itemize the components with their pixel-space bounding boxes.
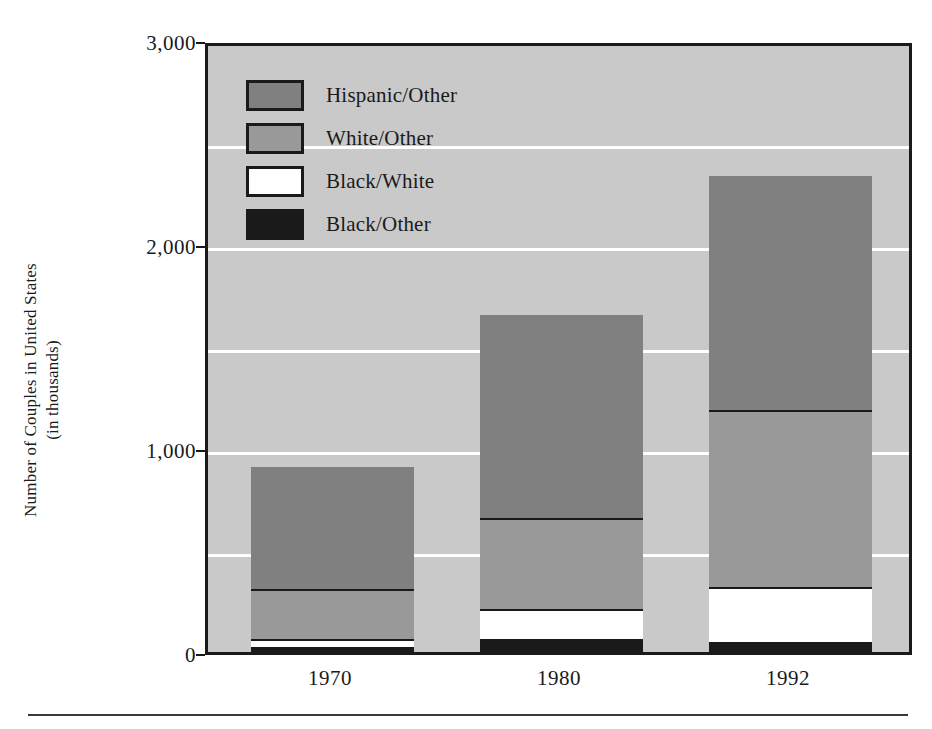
y-tick-label-1000: 1,000 <box>100 439 196 464</box>
plot-area: Hispanic/Other White/Other Black/White B… <box>205 43 912 655</box>
chart-figure: Number of Couples in United States (in t… <box>0 0 932 729</box>
y-axis-title-line2: (in thousands) <box>42 263 64 517</box>
footer-divider <box>28 714 908 716</box>
y-tick-mark-3000 <box>196 42 205 44</box>
legend-swatch-white-other <box>246 123 304 154</box>
legend-swatch-black-white <box>246 166 304 197</box>
legend-swatch-hispanic-other <box>246 80 304 111</box>
y-tick-mark-1000 <box>196 450 205 452</box>
bar-1970[interactable] <box>251 469 414 652</box>
bar-1980-segment-white-other <box>480 518 643 609</box>
bar-1970-segment-white-other <box>251 589 414 639</box>
bar-1992-segment-black-white <box>709 587 872 643</box>
y-tick-mark-2000 <box>196 246 205 248</box>
legend-label-black-other: Black/Other <box>326 212 431 237</box>
bar-1980-segment-hispanic-other <box>480 315 643 518</box>
y-axis-ticks: 3,000 2,000 1,000 0 <box>96 0 196 729</box>
legend-item-white-other[interactable]: White/Other <box>246 118 576 158</box>
bar-1992[interactable] <box>709 178 872 652</box>
y-tick-mark-0 <box>196 654 205 656</box>
legend-item-black-other[interactable]: Black/Other <box>246 204 576 244</box>
bar-1992-segment-hispanic-other <box>709 176 872 410</box>
y-tick-label-2000: 2,000 <box>100 235 196 260</box>
y-axis-title: Number of Couples in United States (in t… <box>22 180 62 600</box>
bar-1992-segment-black-other <box>709 642 872 652</box>
bar-1980-segment-black-other <box>480 639 643 652</box>
y-tick-label-0: 0 <box>100 643 196 668</box>
y-tick-label-3000: 3,000 <box>100 31 196 56</box>
legend-swatch-black-other <box>246 209 304 240</box>
y-axis-title-line1: Number of Couples in United States <box>21 263 40 517</box>
bar-1970-segment-hispanic-other <box>251 467 414 589</box>
bar-1980-segment-black-white <box>480 609 643 640</box>
bar-1992-segment-white-other <box>709 410 872 587</box>
legend-item-hispanic-other[interactable]: Hispanic/Other <box>246 75 576 115</box>
x-tick-label-1980: 1980 <box>479 666 639 691</box>
bar-1980[interactable] <box>480 317 643 652</box>
legend-label-hispanic-other: Hispanic/Other <box>326 83 457 108</box>
bar-1970-segment-black-other <box>251 647 414 652</box>
x-tick-label-1992: 1992 <box>708 666 868 691</box>
legend-label-black-white: Black/White <box>326 169 434 194</box>
legend-item-black-white[interactable]: Black/White <box>246 161 576 201</box>
legend-label-white-other: White/Other <box>326 126 433 151</box>
legend: Hispanic/Other White/Other Black/White B… <box>246 75 576 247</box>
x-tick-label-1970: 1970 <box>250 666 410 691</box>
